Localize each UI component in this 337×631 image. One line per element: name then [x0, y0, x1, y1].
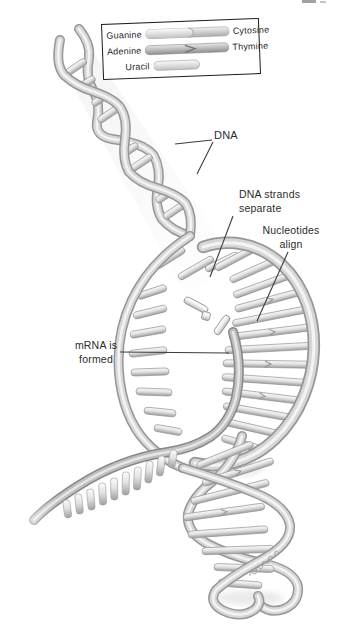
transcription-illustration	[0, 0, 337, 631]
uracil-rod-icon	[153, 57, 237, 72]
legend-label-cytosine: Cytosine	[230, 25, 270, 37]
dna-leader-line-1	[175, 140, 212, 144]
dna-leader-line-2	[197, 142, 213, 174]
mrna-formed-label: mRNA is formed	[70, 339, 122, 366]
nucleotides-align-line2: align	[261, 238, 321, 252]
nucleotides-align-label: Nucleotides align	[261, 224, 321, 251]
strands-separate-label: DNA strands separate	[239, 188, 300, 215]
free-nucleotides	[183, 296, 231, 336]
page-edge-mark	[302, 0, 316, 3]
page-edge-mark	[320, 1, 326, 3]
shadow	[216, 591, 284, 605]
legend-label-thymine: Thymine	[229, 41, 268, 52]
mrna-formed-line2: formed	[70, 353, 122, 367]
guanine-cytosine-pair-rod-icon	[146, 25, 230, 40]
legend-label-adenine: Adenine	[107, 45, 146, 56]
figure: Guanine Cytosine Adenine Thymine Urac	[0, 0, 337, 631]
nucleotides-align-line1: Nucleotides	[261, 224, 321, 238]
fade-overlay	[0, 462, 58, 567]
legend-label-uracil: Uracil	[107, 61, 153, 73]
nucleotide-spokes-left	[129, 284, 183, 436]
dna-label: DNA	[214, 129, 238, 143]
legend-label-empty	[240, 62, 255, 63]
strands-separate-line1: DNA strands	[239, 188, 300, 202]
mrna-formed-line1: mRNA is	[70, 339, 122, 353]
legend-label-guanine: Guanine	[106, 29, 146, 41]
adenine-thymine-pair-rod-icon	[145, 41, 229, 56]
strands-separate-line2: separate	[239, 202, 300, 216]
legend-box: Guanine Cytosine Adenine Thymine Urac	[101, 18, 261, 80]
